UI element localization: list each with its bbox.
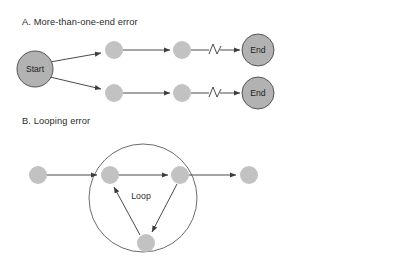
edge-start-to-top-node <box>50 53 101 62</box>
break-symbol-bottom <box>209 87 221 97</box>
panel-b-edges <box>47 175 236 235</box>
panel-b-heading: B. Looping error <box>22 116 90 126</box>
panel-b: B. Looping error Loop <box>22 116 258 252</box>
loop-node-right[interactable] <box>171 166 189 184</box>
step-node-top-1[interactable] <box>105 41 123 59</box>
loop-label: Loop <box>131 191 151 201</box>
panel-a: A. More-than-one-end error <box>17 17 274 109</box>
edge-loop-right-to-loop-bottom <box>152 184 177 232</box>
end-node-bottom-label: End <box>250 88 266 98</box>
flowchart-diagram: A. More-than-one-end error <box>0 0 393 265</box>
panel-a-nodes: Start End End <box>17 34 274 109</box>
figure-root: A. More-than-one-end error <box>0 0 393 265</box>
loop-node-left[interactable] <box>101 166 119 184</box>
panel-a-edges <box>50 44 240 97</box>
step-node-top-2[interactable] <box>173 41 191 59</box>
start-node-label: Start <box>26 64 45 74</box>
panel-b-nodes <box>29 166 258 252</box>
loop-node-bottom[interactable] <box>137 234 155 252</box>
break-symbol-top <box>209 44 221 54</box>
entry-node[interactable] <box>29 166 47 184</box>
exit-node[interactable] <box>240 166 258 184</box>
step-node-bottom-1[interactable] <box>105 84 123 102</box>
end-node-top-label: End <box>250 45 266 55</box>
step-node-bottom-2[interactable] <box>173 84 191 102</box>
edge-start-to-bottom-node <box>50 77 101 89</box>
panel-a-heading: A. More-than-one-end error <box>22 17 138 27</box>
